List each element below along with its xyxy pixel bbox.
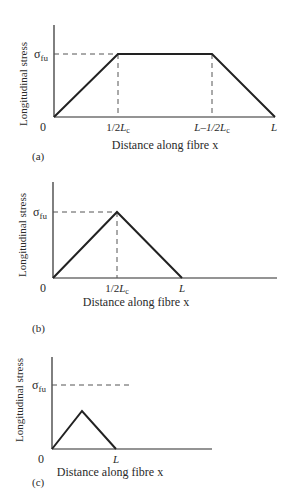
x-tick-l-minus-half-lc: L–1/2Lc [193,121,230,135]
x-tick-l: L [178,282,185,294]
x-axis-label: Distance along fibre x [83,295,189,309]
x-tick-half-lc: 1/2Lc [105,282,129,296]
panel-b: Longitudinal stress σfu 0 1/2Lc L Distan… [16,182,277,335]
x-tick-half-lc: 1/2Lc [106,121,130,135]
panel-a: Longitudinal stress σfu 0 1/2Lc L–1/2Lc … [17,25,277,163]
origin-label: 0 [38,452,44,466]
y-tick-sigma-fu: σfu [32,378,46,394]
origin-label: 0 [40,120,46,134]
x-tick-l: L [112,453,119,465]
y-axis-label: Longitudinal stress [16,193,28,277]
panel-label-a: (a) [32,150,45,163]
stress-curve [54,54,275,117]
stress-curve [52,411,116,449]
fibre-stress-diagram: Longitudinal stress σfu 0 1/2Lc L–1/2Lc … [0,0,291,501]
y-axis-label: Longitudinal stress [13,358,25,442]
origin-label: 0 [40,281,46,295]
panel-label-c: (c) [32,476,45,489]
panel-c: Longitudinal stress σfu 0 L Distance alo… [13,357,212,489]
x-axis-label: Distance along fibre x [112,138,218,152]
x-tick-l: L [270,121,277,133]
y-axis-label: Longitudinal stress [17,42,29,126]
y-tick-sigma-fu: σfu [33,205,47,221]
x-axis-label: Distance along fibre x [57,465,163,479]
y-tick-sigma-fu: σfu [34,47,48,63]
panel-label-b: (b) [32,322,45,335]
